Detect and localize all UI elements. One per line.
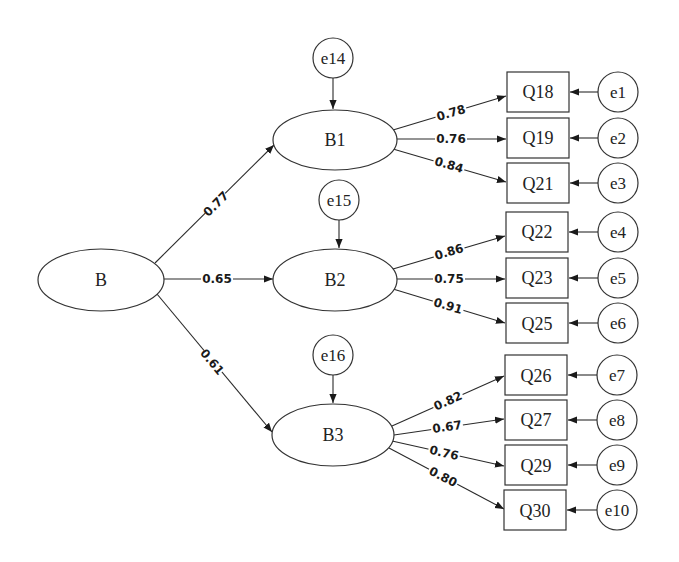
error-e1: e1 <box>598 72 638 112</box>
coef-Q25: 0.91 <box>432 295 464 317</box>
indicator-label: Q25 <box>522 314 553 334</box>
structural-paths <box>155 145 274 432</box>
disturbance-e16: e16 <box>313 335 353 375</box>
coef-Q22: 0.86 <box>433 241 465 263</box>
indicator-label: Q22 <box>522 222 553 242</box>
indicator-label: Q23 <box>522 268 553 288</box>
error-e5: e5 <box>598 258 638 298</box>
indicator-Q21: Q21 <box>507 163 569 203</box>
error-label: e9 <box>609 456 625 475</box>
coef-Q27: 0.67 <box>431 418 462 436</box>
coef-Q26: 0.82 <box>432 389 465 414</box>
factor-label: B <box>95 270 107 290</box>
indicators: Q18 Q19 Q21 Q22 Q23 Q25 Q26 Q27 Q29 Q30 <box>504 72 569 530</box>
error-label: e16 <box>321 346 346 365</box>
factor-label: B2 <box>324 270 345 290</box>
indicator-Q18: Q18 <box>507 72 569 112</box>
coef-Q23: 0.75 <box>434 272 464 286</box>
coef-Q21: 0.84 <box>433 154 465 176</box>
error-label: e6 <box>610 314 626 333</box>
loading-coefficients: 0.78 0.76 0.84 0.86 0.75 0.91 0.82 0.67 … <box>426 101 469 491</box>
indicator-label: Q18 <box>523 82 554 102</box>
factor-B2: B2 <box>273 249 397 311</box>
factor-B: B <box>38 249 164 311</box>
error-e7: e7 <box>597 355 637 395</box>
indicator-Q27: Q27 <box>505 400 567 440</box>
error-terms: e1 e2 e3 e4 e5 e6 e7 e8 e9 e10 <box>597 72 638 530</box>
indicator-Q26: Q26 <box>505 355 567 395</box>
error-e3: e3 <box>598 163 638 203</box>
error-label: e5 <box>610 269 626 288</box>
sem-diagram: 0.77 0.65 0.61 0.78 0.76 0. <box>0 0 679 562</box>
indicator-Q23: Q23 <box>506 258 568 298</box>
indicator-label: Q30 <box>520 501 551 521</box>
error-e9: e9 <box>597 445 637 485</box>
factor-label: B1 <box>324 130 345 150</box>
indicator-label: Q19 <box>523 128 554 148</box>
factor-label: B3 <box>322 425 343 445</box>
indicator-label: Q29 <box>521 456 552 476</box>
error-label: e14 <box>321 49 346 68</box>
coef-B-B1: 0.77 <box>201 189 232 220</box>
disturbance-e15: e15 <box>319 180 359 220</box>
error-label: e7 <box>609 366 626 385</box>
error-e2: e2 <box>598 118 638 158</box>
indicator-label: Q27 <box>521 410 552 430</box>
error-label: e10 <box>605 501 630 520</box>
indicator-Q19: Q19 <box>507 118 569 158</box>
error-label: e3 <box>610 174 626 193</box>
factor-B3: B3 <box>272 404 394 466</box>
indicator-Q29: Q29 <box>505 445 567 485</box>
error-label: e1 <box>610 83 626 102</box>
indicator-Q22: Q22 <box>506 212 568 252</box>
factor-B1: B1 <box>273 110 397 170</box>
error-e6: e6 <box>598 303 638 343</box>
indicator-label: Q21 <box>523 174 554 194</box>
coef-Q30: 0.80 <box>427 464 460 490</box>
coef-Q29: 0.76 <box>428 443 460 463</box>
coef-B-B2: 0.65 <box>202 272 232 286</box>
disturbance-e14: e14 <box>313 38 353 78</box>
error-paths <box>567 92 598 510</box>
indicator-label: Q26 <box>521 366 552 386</box>
error-e8: e8 <box>597 400 637 440</box>
error-label: e15 <box>327 191 352 210</box>
error-label: e8 <box>609 411 625 430</box>
error-label: e2 <box>610 129 626 148</box>
error-e10: e10 <box>597 490 637 530</box>
error-label: e4 <box>610 223 627 242</box>
error-e4: e4 <box>598 212 638 252</box>
coef-Q19: 0.76 <box>436 132 466 146</box>
coef-Q18: 0.78 <box>435 102 467 124</box>
indicator-Q25: Q25 <box>506 303 568 343</box>
indicator-Q30: Q30 <box>504 490 566 530</box>
